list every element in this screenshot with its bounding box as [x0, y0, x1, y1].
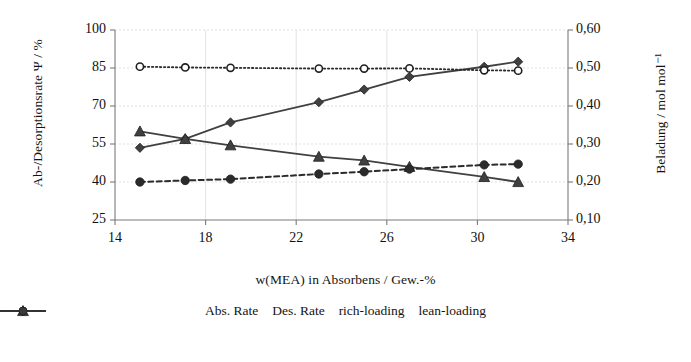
chart-figure: Ab-/Desorptionsrate Ψ / % Beladung / mol… [0, 0, 691, 362]
data-point-filled-circle [226, 175, 234, 183]
legend-label: Des. Rate [272, 303, 324, 319]
legend-item-des-rate[interactable]: Des. Rate [272, 303, 324, 319]
chart-legend: Abs. RateDes. Raterich-loadinglean-loadi… [0, 303, 691, 319]
series-line [140, 67, 518, 71]
legend-label: rich-loading [339, 303, 405, 319]
legend-label: lean-loading [419, 303, 486, 319]
data-point-filled-circle [514, 160, 522, 168]
data-point-diamond [360, 85, 369, 94]
data-point-filled-circle [136, 178, 144, 186]
legend-item-lean-loading[interactable]: lean-loading [419, 303, 486, 319]
series-line [140, 62, 518, 148]
data-point-filled-circle [480, 161, 488, 169]
data-point-open-circle [515, 67, 522, 74]
series-des-rate [135, 126, 524, 187]
data-point-filled-circle [181, 176, 189, 184]
data-point-triangle [135, 126, 146, 136]
legend-item-abs-rate[interactable]: Abs. Rate [205, 303, 258, 319]
data-point-open-circle [315, 65, 322, 72]
data-point-diamond [405, 72, 414, 81]
data-point-open-circle [481, 67, 488, 74]
data-point-open-circle [182, 64, 189, 71]
legend-label: Abs. Rate [205, 303, 258, 319]
data-point-open-circle [136, 63, 143, 70]
data-point-filled-circle [19, 307, 27, 315]
data-point-open-circle [361, 65, 368, 72]
series-abs-rate [135, 57, 522, 152]
data-point-open-circle [227, 64, 234, 71]
data-point-diamond [314, 98, 323, 107]
data-point-filled-circle [315, 170, 323, 178]
legend-item-rich-loading[interactable]: rich-loading [339, 303, 405, 319]
data-point-diamond [226, 118, 235, 127]
data-point-diamond [135, 143, 144, 152]
legend-key-filled-circle-icon [0, 303, 46, 319]
data-point-filled-circle [405, 165, 413, 173]
data-point-diamond [514, 57, 523, 66]
data-point-open-circle [406, 65, 413, 72]
data-point-filled-circle [360, 168, 368, 176]
